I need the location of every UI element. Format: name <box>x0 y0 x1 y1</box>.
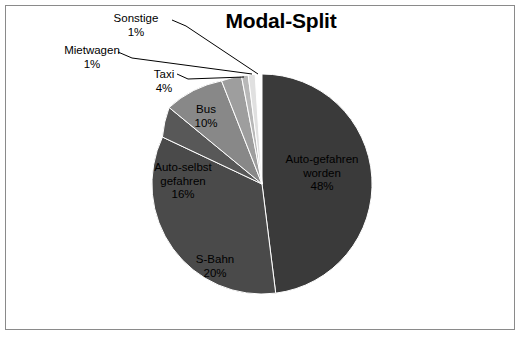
slice-label-text-line1: Bus <box>176 103 236 117</box>
slice-value-sonstige: 1% <box>100 26 172 40</box>
slice-label-text-line1: S-Bahn <box>172 253 258 267</box>
slice-label-s-bahn: S-Bahn 20% <box>172 253 258 280</box>
chart-title: Modal-Split <box>196 9 366 33</box>
slice-label-text-line1: Auto-selbst <box>134 161 232 175</box>
slice-value-bus: 10% <box>176 117 236 131</box>
slice-label-sonstige: Sonstige 1% <box>100 12 172 39</box>
slice-label-text-line1: Sonstige <box>100 12 172 26</box>
slice-label-auto-selbst-gefahren: Auto-selbst gefahren 16% <box>134 161 232 202</box>
slice-label-text-line1: Auto-gefahren <box>266 153 378 167</box>
slice-label-text-line2: gefahren <box>134 175 232 189</box>
slice-label-text-line1: Mietwagen <box>48 44 136 58</box>
slice-value-auto-gefahren-worden: 48% <box>266 180 378 194</box>
pie-chart: Modal-Split Auto-gefahren worden 48% S-B… <box>0 0 522 337</box>
slice-label-bus: Bus 10% <box>176 103 236 130</box>
slice-value-auto-selbst-gefahren: 16% <box>134 188 232 202</box>
slice-value-s-bahn: 20% <box>172 267 258 281</box>
slice-label-mietwagen: Mietwagen 1% <box>48 44 136 71</box>
slice-label-text-line1: Taxi <box>140 68 188 82</box>
screenshot-root: Modal-Split Auto-gefahren worden 48% S-B… <box>0 0 522 337</box>
slice-label-auto-gefahren-worden: Auto-gefahren worden 48% <box>266 153 378 194</box>
slice-value-mietwagen: 1% <box>48 58 136 72</box>
slice-label-text-line2: worden <box>266 167 378 181</box>
slice-value-taxi: 4% <box>140 82 188 96</box>
slice-label-taxi: Taxi 4% <box>140 68 188 95</box>
